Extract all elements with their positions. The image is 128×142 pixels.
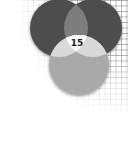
venn-diagram-canvas: 15 [0, 0, 128, 142]
center-count-label: 15 [71, 39, 84, 48]
venn-diagram [0, 0, 128, 142]
